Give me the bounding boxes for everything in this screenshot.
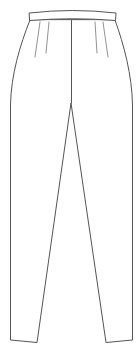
trousers-flat-drawing [0,0,138,352]
waistband [30,11,117,21]
